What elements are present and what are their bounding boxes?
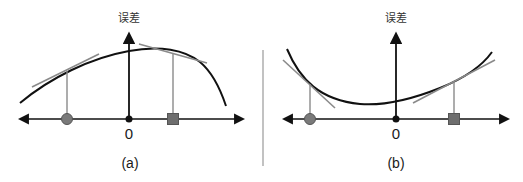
error-curve-convex <box>287 49 492 104</box>
square-marker <box>449 114 460 125</box>
tangent-line-left <box>32 54 99 87</box>
panel-caption: (a) <box>121 155 138 171</box>
y-axis-label: 误差 <box>118 11 140 25</box>
circle-marker <box>305 114 316 125</box>
y-axis-label: 误差 <box>385 11 407 25</box>
origin-dot <box>393 116 400 123</box>
circle-marker <box>62 114 73 125</box>
panel-a: 误差 0 (a) <box>20 11 243 171</box>
panel-caption: (b) <box>387 155 404 171</box>
origin-label: 0 <box>392 125 400 142</box>
origin-label: 0 <box>125 125 133 142</box>
square-marker <box>168 114 179 125</box>
origin-dot <box>126 116 133 123</box>
tangent-line-left <box>283 60 335 108</box>
diagram-canvas: 误差 0 (a) 误差 0 (b) <box>0 0 523 182</box>
panel-b: 误差 0 (b) <box>283 11 508 171</box>
